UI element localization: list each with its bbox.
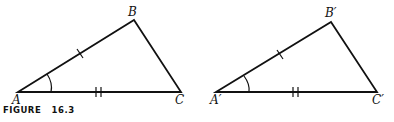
label-c: C	[175, 93, 184, 107]
tick-ab	[77, 49, 83, 58]
triangle-abc-outline	[18, 20, 181, 92]
label-b-prime: B′	[324, 6, 337, 20]
figure-canvas: A B C A′ B′ C′	[0, 0, 394, 122]
angle-arc-a-prime	[244, 76, 249, 92]
triangle-abc	[18, 20, 181, 97]
figure-caption: FIGURE 16.3	[3, 105, 75, 115]
label-a-prime: A′	[209, 93, 222, 107]
triangle-a-prime-b-prime-c-prime	[216, 22, 377, 97]
label-c-prime: C′	[372, 93, 384, 107]
angle-arc-a	[47, 74, 52, 92]
label-b: B	[127, 5, 137, 19]
triangle-prime-outline	[216, 22, 377, 92]
